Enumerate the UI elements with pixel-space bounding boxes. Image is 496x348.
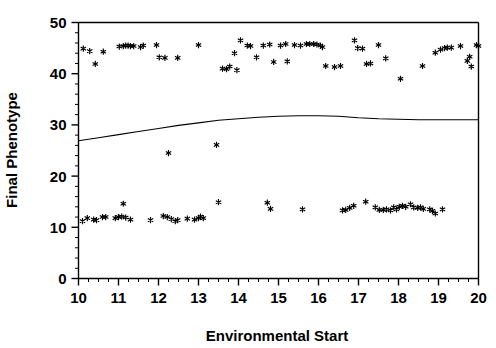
data-point-marker	[80, 218, 85, 224]
x-axis-tick-labels: 1011121314151617181920	[70, 289, 487, 306]
data-point-marker	[278, 42, 283, 48]
data-point-marker	[300, 206, 305, 212]
data-point-marker	[214, 142, 219, 148]
data-point-marker	[101, 49, 106, 55]
data-point-marker	[283, 41, 288, 47]
x-tick-label: 20	[470, 289, 487, 306]
data-point-marker	[185, 215, 190, 221]
x-tick-label: 14	[230, 289, 247, 306]
data-point-marker	[332, 64, 337, 70]
data-point-marker	[254, 54, 259, 60]
data-point-marker	[373, 204, 378, 210]
data-point-marker	[121, 201, 126, 207]
data-point-marker	[458, 43, 463, 49]
data-point-marker	[449, 44, 454, 50]
data-point-marker	[351, 203, 356, 209]
x-tick-label: 16	[310, 289, 327, 306]
y-tick-label: 50	[50, 14, 67, 31]
data-point-marker	[81, 46, 86, 52]
x-tick-label: 15	[270, 289, 287, 306]
axis-frame	[79, 23, 479, 279]
data-point-marker	[469, 63, 474, 69]
data-point-marker	[347, 205, 352, 211]
data-point-marker	[87, 48, 92, 54]
data-point-marker	[265, 200, 270, 206]
data-point-marker	[440, 206, 445, 212]
data-point-marker	[103, 214, 108, 220]
data-point-marker	[128, 217, 133, 223]
x-tick-label: 19	[430, 289, 447, 306]
data-point-marker	[162, 55, 167, 61]
data-point-marker	[352, 37, 357, 43]
data-point-marker	[292, 42, 297, 48]
y-tick-label: 40	[50, 65, 67, 82]
data-point-marker	[323, 63, 328, 69]
y-axis-title: Final Phenotype	[3, 92, 20, 208]
x-tick-label: 13	[190, 289, 207, 306]
data-point-marker	[234, 67, 239, 73]
data-point-marker	[100, 214, 105, 220]
data-point-marker	[298, 42, 303, 48]
data-point-marker	[376, 42, 381, 48]
y-axis-ticks	[72, 23, 79, 279]
data-point-marker	[157, 54, 162, 60]
data-point-marker	[238, 37, 243, 43]
data-point-marker	[355, 45, 360, 51]
data-point-marker	[232, 50, 237, 56]
x-tick-label: 18	[390, 289, 407, 306]
x-tick-label: 17	[350, 289, 367, 306]
y-tick-label: 30	[50, 116, 67, 133]
data-point-marker	[169, 216, 174, 222]
x-tick-label: 11	[111, 289, 127, 306]
chart-figure: 1011121314151617181920 01020304050 Envir…	[0, 0, 496, 348]
data-point-marker	[154, 42, 159, 48]
data-point-marker	[268, 206, 273, 212]
data-point-marker	[166, 150, 171, 156]
data-point-marker	[285, 58, 290, 64]
trend-line	[79, 116, 479, 141]
data-point-marker	[398, 76, 403, 82]
data-point-marker	[363, 199, 368, 205]
x-tick-label: 10	[70, 289, 87, 306]
scatter-plot-svg: 1011121314151617181920 01020304050 Envir…	[0, 0, 496, 348]
data-point-marker	[261, 42, 266, 48]
data-point-marker	[85, 215, 90, 221]
data-point-marker	[377, 207, 382, 213]
plot-frame	[79, 23, 479, 279]
data-point-marker	[307, 41, 312, 47]
y-axis-tick-labels: 01020304050	[50, 14, 67, 287]
data-point-marker	[338, 63, 343, 69]
data-point-marker	[433, 50, 438, 56]
data-point-marker	[383, 55, 388, 61]
data-point-marker	[420, 63, 425, 69]
data-point-marker	[175, 55, 180, 61]
data-point-marker	[360, 46, 365, 52]
data-point-marker	[216, 199, 221, 205]
data-point-marker	[196, 42, 201, 48]
y-tick-label: 0	[58, 270, 66, 287]
x-axis-ticks	[79, 279, 479, 286]
data-point-marker	[148, 217, 153, 223]
data-point-marker	[131, 43, 136, 49]
y-tick-label: 10	[50, 219, 67, 236]
x-axis-title: Environmental Start	[206, 327, 349, 344]
y-tick-label: 20	[50, 168, 67, 185]
x-tick-label: 12	[150, 289, 167, 306]
data-point-marker	[271, 59, 276, 65]
data-point-marker	[304, 41, 309, 47]
data-point-marker	[267, 41, 272, 47]
data-point-marker	[93, 61, 98, 67]
